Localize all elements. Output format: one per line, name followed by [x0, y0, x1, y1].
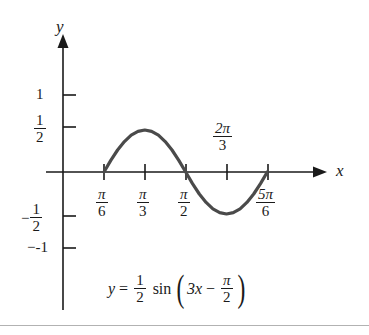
x-tick-pi-3-denominator: 3: [137, 203, 149, 220]
y-tick-label-1: 1: [36, 87, 44, 102]
y-tick-half-denominator: 2: [34, 129, 46, 146]
x-tick-2pi-3-denominator: 3: [213, 137, 232, 154]
x-tick-pi-2-denominator: 2: [178, 203, 190, 220]
x-tick-5pi-6-denominator: 6: [256, 203, 275, 220]
y-tick-neg-half-numerator: 1: [30, 201, 42, 218]
equation-caption: y = 1 2 sin ( 3x − π 2 ): [108, 272, 248, 306]
x-tick-pi-3-numerator: π: [137, 186, 149, 203]
equation-phase-fraction: π 2: [221, 272, 233, 306]
equation-function-name: sin: [153, 280, 172, 298]
y-tick-label-half: 1 2: [34, 112, 46, 146]
equation-minus-operator: −: [206, 280, 215, 298]
x-axis-label: x: [336, 162, 344, 179]
x-tick-label-pi-3: π 3: [137, 186, 149, 220]
equation-paren-close: ): [237, 275, 245, 302]
equation-amplitude-numerator: 1: [134, 272, 146, 289]
equation-amplitude-fraction: 1 2: [134, 272, 146, 306]
x-tick-5pi-6-numerator: 5π: [256, 186, 275, 203]
equation-phase-denominator: 2: [221, 289, 233, 306]
y-tick-label-neg-half: − 1 2: [21, 201, 42, 235]
x-tick-label-pi-2: π 2: [178, 186, 190, 220]
x-tick-pi-6-numerator: π: [96, 186, 108, 203]
equation-amplitude-denominator: 2: [134, 289, 146, 306]
minus-sign-neg-half: −: [21, 211, 29, 226]
x-tick-label-5pi-6: 5π 6: [256, 186, 275, 220]
x-tick-pi-2-numerator: π: [178, 186, 190, 203]
trigonometric-graph-figure: y x 1 1 2 − 1 2 −-1 π 6 π 3 π: [0, 0, 369, 335]
y-axis-arrowhead: [58, 34, 69, 48]
equation-equals: =: [119, 280, 128, 298]
equation-lhs: y: [108, 280, 115, 298]
x-tick-label-2pi-3: 2π 3: [213, 120, 232, 154]
y-tick-neg-1-value: -1: [35, 239, 48, 255]
y-axis-label: y: [56, 18, 64, 35]
equation-inner-term: 3x: [187, 280, 202, 298]
y-tick-neg-half-denominator: 2: [30, 218, 42, 235]
bottom-divider: [0, 325, 369, 326]
x-tick-label-pi-6: π 6: [96, 186, 108, 220]
y-tick-half-numerator: 1: [34, 112, 46, 129]
equation-phase-numerator: π: [221, 272, 233, 289]
equation-paren-open: (: [177, 275, 185, 302]
x-axis-arrowhead: [313, 167, 327, 178]
y-tick-label-neg-1: −-1: [27, 240, 48, 255]
x-tick-pi-6-denominator: 6: [96, 203, 108, 220]
x-tick-2pi-3-numerator: 2π: [213, 120, 232, 137]
